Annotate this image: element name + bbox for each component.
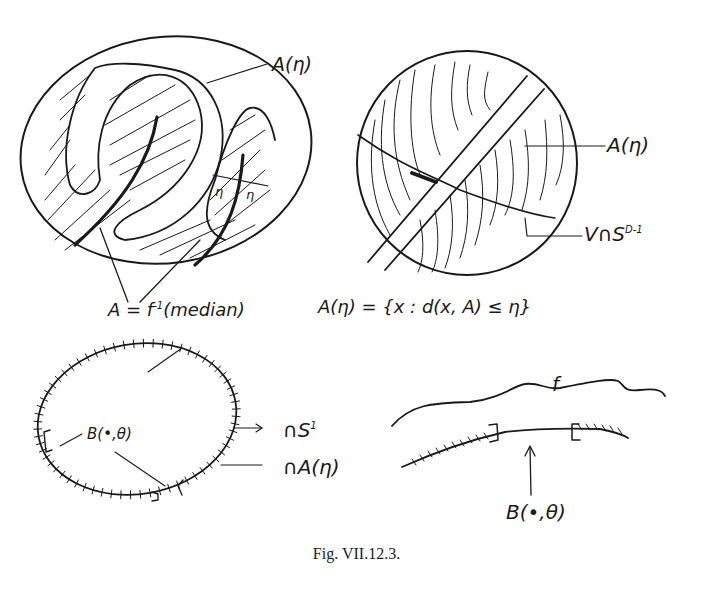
top-right-A-eta-label: A(η) [607, 133, 649, 157]
bottom-right-f-label: f [552, 372, 559, 396]
bottom-right-graph [392, 380, 665, 495]
V-label-prefix: V∩S [584, 222, 625, 246]
formula-A-suffix: (median) [163, 299, 245, 320]
figure-caption: Fig. VII.12.3. [0, 545, 713, 563]
formula-A-median: A = f-1(median) [108, 299, 245, 320]
bottom-left-A-eta-label: ∩A(η) [283, 455, 340, 479]
top-left-eta-label-1: η [215, 184, 223, 199]
bottom-left-B-label: B(•,θ) [87, 425, 132, 443]
bottom-left-S1-label: ∩S1 [283, 418, 317, 442]
formula-A-sup: -1 [153, 300, 163, 311]
bottom-left-circle [25, 328, 262, 510]
top-left-A-eta-label: A(η) [272, 53, 312, 75]
S1-label-prefix: ∩S [283, 418, 310, 442]
sketch-drawing [0, 0, 713, 589]
formula-A-eta: A(η) = {x : d(x, A) ≤ η} [318, 296, 531, 317]
V-label-sup: D-1 [625, 224, 643, 235]
figure: A(η) η η A = f-1(median) A(η) V∩SD-1 A(η… [0, 0, 713, 589]
formula-A-prefix: A = f [108, 299, 153, 320]
S1-label-sup: 1 [310, 420, 316, 431]
top-right-sphere [357, 51, 605, 275]
bottom-right-B-label: B(•,θ) [506, 500, 566, 524]
top-left-eta-label-2: η [246, 187, 254, 202]
top-right-V-label: V∩SD-1 [584, 222, 643, 246]
